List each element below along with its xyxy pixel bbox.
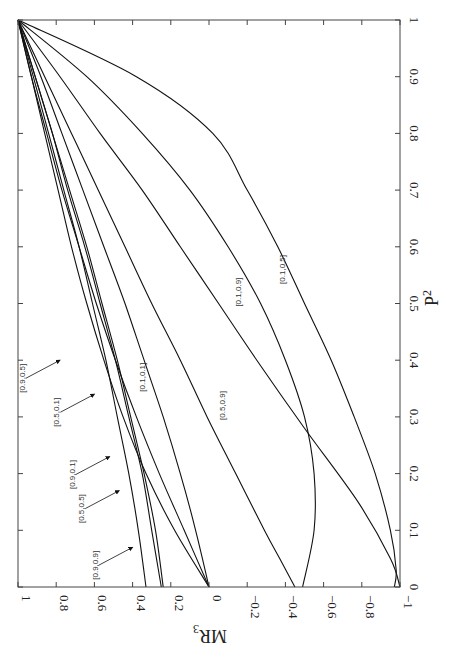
x-tick-label: 1	[407, 17, 422, 24]
curve-label: [0.9,0.5]	[18, 364, 27, 393]
curve-label: [0.1,0.9]	[234, 278, 243, 307]
plot-frame	[18, 20, 400, 587]
y-tick-label: 0	[210, 595, 225, 602]
x-axis-label: P2	[420, 290, 442, 306]
series-line	[18, 20, 295, 587]
svg-text:P2: P2	[420, 290, 442, 306]
x-tick-label: 0.8	[407, 125, 422, 141]
x-tick-label: 0.1	[407, 522, 422, 538]
x-tick-label: 0.7	[407, 182, 422, 199]
y-tick-label: −1	[401, 595, 416, 609]
x-tick-label: 0.4	[407, 352, 422, 369]
curve-label: [0.5,0.9]	[218, 391, 227, 420]
y-axis-label: MR3	[193, 622, 227, 646]
curve-label: [0.1,0.1]	[138, 363, 147, 392]
series-line	[18, 20, 315, 587]
curve-label: [0.1,0.5]	[278, 255, 287, 284]
y-tick-label: 0.4	[134, 595, 149, 612]
curve-label: [0.9,0.1]	[68, 460, 77, 489]
series-line	[18, 20, 163, 587]
y-tick-label: 0.8	[57, 595, 72, 611]
label-arrow	[76, 457, 110, 475]
x-tick-label: 0.9	[407, 69, 422, 85]
y-tick-label: 0.2	[172, 595, 187, 611]
series-line	[18, 20, 396, 587]
curve-label: [0.5,0.5]	[77, 494, 86, 523]
y-tick-label: −0.2	[248, 595, 263, 619]
label-arrow	[26, 360, 60, 378]
label-arrow	[99, 547, 133, 565]
y-tick-label: −0.4	[286, 595, 301, 619]
x-tick-label: 0.6	[407, 239, 422, 256]
y-tick-label: −0.8	[363, 595, 378, 619]
curve-label: [0.5,0.1]	[52, 398, 61, 427]
y-tick-label: −0.6	[325, 595, 340, 619]
series-line	[18, 20, 161, 587]
svg-text:MR3: MR3	[193, 622, 227, 646]
curves	[18, 20, 400, 587]
y-tick-label: 1	[19, 595, 34, 602]
label-arrow	[60, 394, 94, 412]
x-tick-label: 0	[407, 584, 422, 591]
curve-label: [0.9,0.9]	[91, 551, 100, 580]
y-tick-label: 0.6	[95, 595, 110, 612]
series-line	[18, 20, 400, 587]
x-tick-label: 0.5	[407, 295, 422, 311]
axis-ticks: 10.80.60.40.20−0.2−0.4−0.6−0.8−100.10.20…	[18, 17, 422, 619]
rotated-line-chart: 10.80.60.40.20−0.2−0.4−0.6−0.8−100.10.20…	[0, 0, 452, 654]
x-tick-label: 0.2	[407, 465, 422, 481]
label-arrow	[85, 491, 119, 509]
x-tick-label: 0.3	[407, 409, 422, 425]
